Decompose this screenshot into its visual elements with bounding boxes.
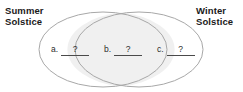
venn-diagram-figure: Summer Solstice Winter Solstice a. ? b. … xyxy=(0,0,243,92)
blank-answer-b[interactable]: ? xyxy=(114,44,142,56)
winter-solstice-heading: Winter Solstice xyxy=(196,5,233,27)
blank-entry-c: c. ? xyxy=(157,44,195,56)
blank-letter-b: b. xyxy=(104,44,111,54)
blank-answer-a[interactable]: ? xyxy=(61,44,89,56)
blank-letter-c: c. xyxy=(157,44,164,54)
blank-letter-a: a. xyxy=(51,44,58,54)
blank-entry-b: b. ? xyxy=(104,44,142,56)
blank-entry-a: a. ? xyxy=(51,44,89,56)
summer-solstice-heading: Summer Solstice xyxy=(5,5,44,27)
blank-answer-c[interactable]: ? xyxy=(167,44,195,56)
